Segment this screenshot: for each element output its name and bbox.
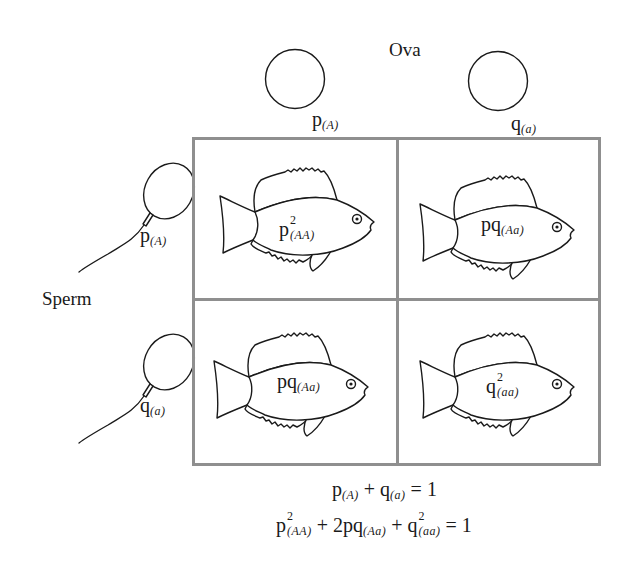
ovum-icon [262, 46, 328, 112]
sperm-title: Sperm [42, 289, 92, 308]
punnett-cell-Aa: pq(Aa) [399, 140, 600, 298]
hardy-weinberg-equation: p2(AA) + 2pq(Aa) + q2(aa) = 1 [276, 509, 472, 539]
sperm-label-q: q(a) [140, 395, 166, 417]
sperm-label-p: p(A) [140, 225, 167, 247]
genotype-label: q2(aa) [486, 370, 519, 400]
sperm-icon [40, 150, 180, 280]
genotype-label: p2(AA) [279, 213, 315, 243]
ovum-icon [465, 48, 531, 114]
sperm-icon [40, 321, 180, 461]
ova-title: Ova [389, 40, 421, 59]
ovum-label-q: q(a) [511, 113, 537, 135]
punnett-cell-aa: q2(aa) [399, 301, 600, 459]
ovum-label-p: p(A) [312, 109, 339, 131]
punnett-cell-Aa: pq(Aa) [195, 301, 396, 459]
genotype-label: pq(Aa) [277, 370, 320, 395]
allele-frequency-equation: p(A) + q(a) = 1 [332, 478, 437, 503]
genotype-label: pq(Aa) [481, 213, 524, 238]
punnett-square: p2(AA) pq(Aa) pq(Aa) q2(aa) [192, 137, 601, 466]
punnett-cell-AA: p2(AA) [195, 140, 396, 298]
